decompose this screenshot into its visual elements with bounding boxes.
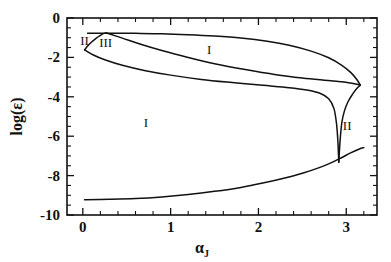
x-tick-label: 0 <box>79 219 87 235</box>
y-tick-label: -2 <box>48 49 61 65</box>
y-tick-label: -10 <box>40 207 60 223</box>
minor-tick-marks <box>67 18 377 215</box>
phase-diagram-svg: 01230-2-4-6-8-10 IIIIIIIII log(ε)αJ <box>0 0 391 262</box>
y-tick-label: -8 <box>48 168 61 184</box>
region-label-III: III <box>99 35 112 50</box>
boundary-curves <box>85 33 364 200</box>
axis-titles: log(ε)αJ <box>8 98 209 259</box>
y-tick-label: -6 <box>48 128 61 144</box>
phase-diagram-figure: 01230-2-4-6-8-10 IIIIIIIII log(ε)αJ <box>0 0 391 262</box>
region-label-II-right: II <box>343 118 352 133</box>
axes-frame <box>67 18 377 215</box>
x-tick-label: 3 <box>343 219 351 235</box>
curve-lower-boundary-left <box>85 50 339 162</box>
x-axis-title: αJ <box>195 239 209 259</box>
curve-bottom-boundary <box>85 148 364 200</box>
region-label-I-upper: I <box>207 42 211 57</box>
curve-middle-boundary <box>107 33 361 85</box>
region-labels: IIIIIIIII <box>80 33 351 134</box>
region-label-II-left: II <box>80 33 89 48</box>
major-tick-marks <box>67 18 377 215</box>
y-tick-label: -4 <box>48 89 61 105</box>
region-label-I-lower: I <box>144 115 148 130</box>
x-tick-label: 2 <box>255 219 263 235</box>
x-axis-title-subscript: J <box>204 248 209 259</box>
x-tick-label: 1 <box>167 219 175 235</box>
y-tick-label: 0 <box>53 10 61 26</box>
y-axis-title: log(ε) <box>8 98 26 136</box>
